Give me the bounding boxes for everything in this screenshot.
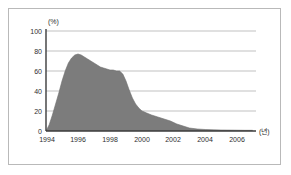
chart-svg: 100 80 60 40 20 0 1994 1996 1998 2000 20… bbox=[0, 0, 291, 175]
y-tick-label-0: 0 bbox=[38, 128, 42, 135]
x-tick-label-2004: 2004 bbox=[197, 136, 213, 143]
series-area-group bbox=[46, 54, 253, 131]
series-area-fill bbox=[46, 54, 253, 131]
y-axis-unit-label: (%) bbox=[48, 18, 59, 26]
x-axis-unit-label: (년) bbox=[259, 127, 270, 136]
x-tick-label-2006: 2006 bbox=[229, 136, 245, 143]
x-tick-label-2000: 2000 bbox=[134, 136, 150, 143]
y-tick-label-40: 40 bbox=[34, 88, 42, 95]
x-tick-label-1996: 1996 bbox=[70, 136, 86, 143]
y-tick-label-80: 80 bbox=[34, 48, 42, 55]
x-tick-label-1998: 1998 bbox=[102, 136, 118, 143]
y-tick-label-100: 100 bbox=[30, 28, 42, 35]
area-chart: 100 80 60 40 20 0 1994 1996 1998 2000 20… bbox=[0, 0, 291, 175]
y-tick-label-20: 20 bbox=[34, 108, 42, 115]
x-tick-label-2002: 2002 bbox=[165, 136, 181, 143]
x-tick-label-1994: 1994 bbox=[39, 136, 55, 143]
x-axis-tick-labels: 1994 1996 1998 2000 2002 2004 2006 bbox=[39, 136, 245, 143]
y-axis-tick-labels: 100 80 60 40 20 0 bbox=[30, 28, 42, 135]
y-tick-label-60: 60 bbox=[34, 68, 42, 75]
